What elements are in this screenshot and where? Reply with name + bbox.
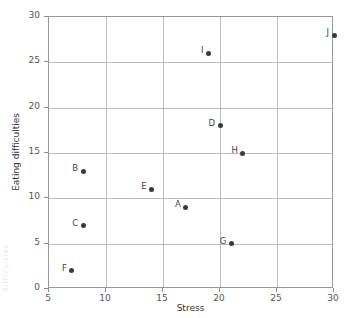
data-point-label: F (62, 263, 69, 273)
x-axis-tick-label: 10 (90, 293, 120, 303)
y-axis-tick (44, 16, 48, 17)
gridline-horizontal (49, 62, 332, 63)
data-point-marker (81, 169, 86, 174)
x-axis-tick-label: 20 (204, 293, 234, 303)
x-axis-tick (162, 288, 163, 292)
data-point-label: H (231, 145, 239, 155)
y-axis-tick (44, 107, 48, 108)
x-axis-tick-label: 15 (147, 293, 177, 303)
x-axis-tick (219, 288, 220, 292)
gridline-vertical (277, 17, 278, 287)
y-axis-tick (44, 152, 48, 153)
data-point-label: C (72, 218, 80, 228)
data-point-marker (206, 51, 211, 56)
data-point-marker (229, 241, 234, 246)
y-axis-tick (44, 197, 48, 198)
data-point-label: G (220, 236, 229, 246)
y-axis-tick (44, 243, 48, 244)
data-point-label: I (201, 45, 206, 55)
data-point-marker (332, 33, 337, 38)
data-point-marker (69, 268, 74, 273)
gridline-horizontal (49, 153, 332, 154)
gridline-vertical (220, 17, 221, 287)
gridline-horizontal (49, 244, 332, 245)
data-point-marker (240, 151, 245, 156)
x-axis-title: Stress (48, 303, 333, 313)
data-point-marker (218, 123, 223, 128)
gridline-horizontal (49, 198, 332, 199)
data-point-label: A (175, 199, 183, 209)
x-axis-tick-label: 5 (33, 293, 63, 303)
gridline-vertical (106, 17, 107, 287)
data-point-label: B (72, 163, 80, 173)
y-axis-tick (44, 288, 48, 289)
x-axis-tick-label: 30 (318, 293, 348, 303)
y-axis-title-text: Eating difficulties (11, 113, 21, 191)
data-point-marker (183, 205, 188, 210)
gridline-horizontal (49, 108, 332, 109)
y-axis-title: Eating difficulties (10, 16, 22, 288)
x-axis-tick (333, 288, 334, 292)
x-axis-tick (48, 288, 49, 292)
scatter-chart-figure: difficulties ABCDEFGHIJ 51015202530 0510… (0, 0, 348, 318)
data-point-label: D (208, 118, 217, 128)
y-axis-tick (44, 61, 48, 62)
x-axis-tick-label: 25 (261, 293, 291, 303)
gridline-vertical (163, 17, 164, 287)
plot-area: ABCDEFGHIJ (48, 16, 333, 288)
data-point-label: E (141, 181, 148, 191)
x-axis-tick (276, 288, 277, 292)
data-point-marker (81, 223, 86, 228)
data-point-label: J (326, 27, 331, 37)
data-point-marker (149, 187, 154, 192)
x-axis-tick (105, 288, 106, 292)
